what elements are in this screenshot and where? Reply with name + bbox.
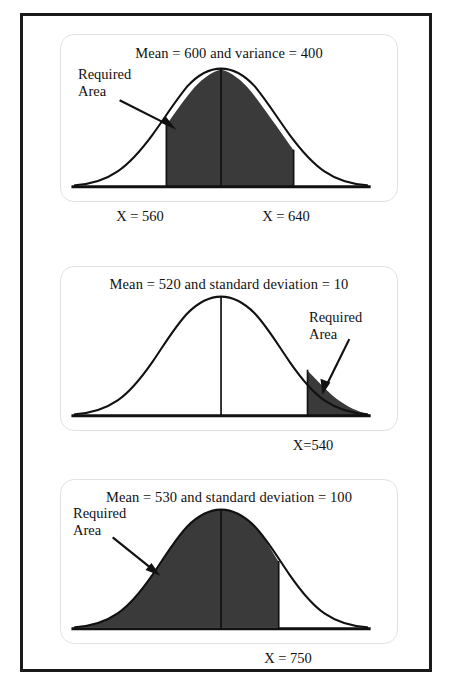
figure-frame: Mean = 600 and variance = 400 Required A…	[20, 13, 432, 672]
panel-3-annotation-line1: Required	[73, 505, 126, 521]
panel-card-2: Mean = 520 and standard deviation = 10 R…	[60, 266, 398, 431]
panel-2-axis-label-0: X=540	[268, 437, 358, 454]
panel-2-arrow-head	[320, 379, 330, 395]
panel-2-annotation-line1: Required	[309, 309, 362, 325]
panel-1-bell-curve	[75, 69, 367, 186]
panel-1-axis-label-0: X = 560	[95, 208, 185, 225]
panel-3-arrow-head	[145, 563, 160, 576]
panel-1-title: Mean = 600 and variance = 400	[61, 46, 397, 62]
panel-2-arrow-shaft	[325, 339, 349, 387]
panel-3-bell-curve	[75, 510, 367, 628]
panel-3-shaded-area	[75, 510, 279, 628]
panel-1-axis-label-1: X = 640	[241, 208, 331, 225]
panel-3-arrow-shaft	[113, 537, 155, 571]
panel-2-annotation-line2: Area	[309, 326, 337, 342]
panel-3-title: Mean = 530 and standard deviation = 100	[61, 490, 397, 506]
panel-2-title: Mean = 520 and standard deviation = 10	[61, 277, 397, 293]
panel-1-shaded-area	[166, 70, 293, 187]
panel-1-annotation-line1: Required	[78, 66, 131, 82]
panel-card-3: Mean = 530 and standard deviation = 100 …	[60, 479, 398, 644]
panel-3-annotation-line2: Area	[73, 522, 101, 538]
panel-3-axis-label-0: X = 750	[243, 650, 333, 667]
panel-1-arrow-shaft	[120, 100, 171, 126]
panel-1-annotation-line2: Area	[78, 83, 106, 99]
panel-2-shaded-area	[308, 371, 370, 415]
panel-card-1: Mean = 600 and variance = 400 Required A…	[60, 34, 398, 202]
panel-1-arrow-head	[161, 116, 176, 130]
